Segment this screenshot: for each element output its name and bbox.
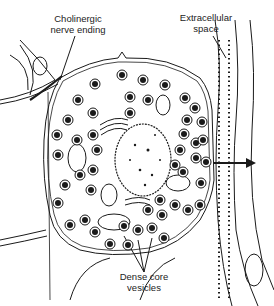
label-line: Dense core <box>104 271 184 282</box>
label-cholinergic-nerve-ending: Cholinergic nerve ending <box>38 13 118 35</box>
dense-core-vesicles <box>52 70 211 250</box>
label-line: Cholinergic <box>38 13 118 24</box>
diagram-canvas <box>0 0 274 306</box>
label-line: Extracellular <box>166 12 246 23</box>
label-dense-core-vesicles: Dense core vesicles <box>104 271 184 293</box>
cell-diagram <box>0 0 274 306</box>
label-extracellular-space: Extracellular space <box>166 12 246 34</box>
label-line: vesicles <box>104 282 184 293</box>
nucleus <box>115 124 171 196</box>
label-line: nerve ending <box>38 24 118 35</box>
label-line: space <box>166 23 246 34</box>
